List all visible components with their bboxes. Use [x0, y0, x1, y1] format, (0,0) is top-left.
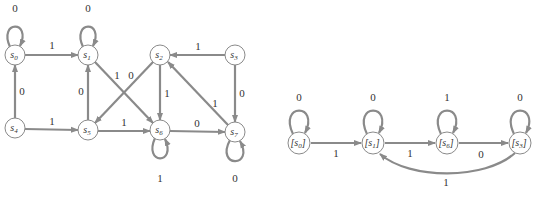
state-s3: s3: [225, 45, 245, 65]
state-s4: s4: [5, 118, 25, 138]
label-s4-s5: 1: [49, 115, 55, 127]
state-class-s3: [s3]: [509, 132, 531, 154]
label-rs3-rs1: 1: [443, 176, 449, 188]
label-s5-s6: 1: [121, 116, 127, 128]
label-s5-s1: 0: [78, 85, 84, 97]
label-rs0-loop: 0: [296, 91, 302, 103]
edge-s7-loop: [227, 140, 244, 161]
edge-s6-s7: [170, 131, 225, 132]
label-rs6-rs3: 0: [478, 148, 484, 160]
state-s2: s2: [150, 45, 170, 65]
state-s6: s6: [150, 120, 170, 140]
state-class-s1: [s1]: [362, 132, 384, 154]
edge-s1-loop: [80, 27, 95, 47]
label-s1-s6: 1: [114, 69, 120, 81]
label-rs6-loop: 1: [444, 91, 450, 103]
edge-rs3-loop: [511, 111, 530, 134]
edge-s0-loop: [7, 27, 22, 47]
label-s1-loop: 0: [85, 2, 91, 14]
label-s2-s5: 0: [128, 69, 134, 81]
label-s3-s7: 0: [239, 87, 245, 99]
state-s5: s5: [78, 120, 98, 140]
edge-s4-s5: [25, 129, 78, 130]
label-rs1-loop: 0: [370, 91, 376, 103]
state-s1: s1: [78, 45, 98, 65]
state-s0: s0: [5, 45, 25, 65]
state-diagrams: 0 1 0 1 0 1 1 0 0 1 0 1 1 0 0 1 s0 s1 s2…: [0, 0, 538, 197]
state-s7: s7: [225, 122, 245, 142]
edge-rs0-loop: [290, 111, 309, 134]
label-s4-s0: 0: [19, 85, 25, 97]
state-class-s0: [s0]: [288, 132, 310, 154]
label-s0-loop: 0: [12, 2, 18, 14]
state-class-s6: [s6]: [436, 132, 458, 154]
right-state-diagram: 0 1 0 1 1 0 0 1 [s0] [s1] [s6] [s3]: [288, 91, 531, 188]
left-state-diagram: 0 1 0 1 0 1 1 0 0 1 0 1 1 0 0 1 s0 s1 s2…: [5, 2, 245, 184]
label-s6-s7: 0: [194, 117, 200, 129]
label-rs3-loop: 0: [517, 91, 523, 103]
label-s2-s6: 1: [164, 87, 170, 99]
label-s3-s2: 1: [195, 40, 201, 52]
label-s6-loop: 1: [157, 172, 163, 184]
edge-s7-s2: [168, 62, 228, 125]
edge-rs3-rs1: [380, 153, 515, 173]
edge-rs1-loop: [364, 111, 383, 134]
label-rs1-rs6: 1: [407, 147, 413, 159]
label-rs0-rs1: 1: [333, 147, 339, 159]
label-s0-s1: 1: [49, 39, 55, 51]
label-s7-s2: 1: [212, 97, 218, 109]
edge-rs6-loop: [438, 111, 457, 134]
label-s7-loop: 0: [232, 172, 238, 184]
edge-s6-loop: [152, 138, 167, 158]
